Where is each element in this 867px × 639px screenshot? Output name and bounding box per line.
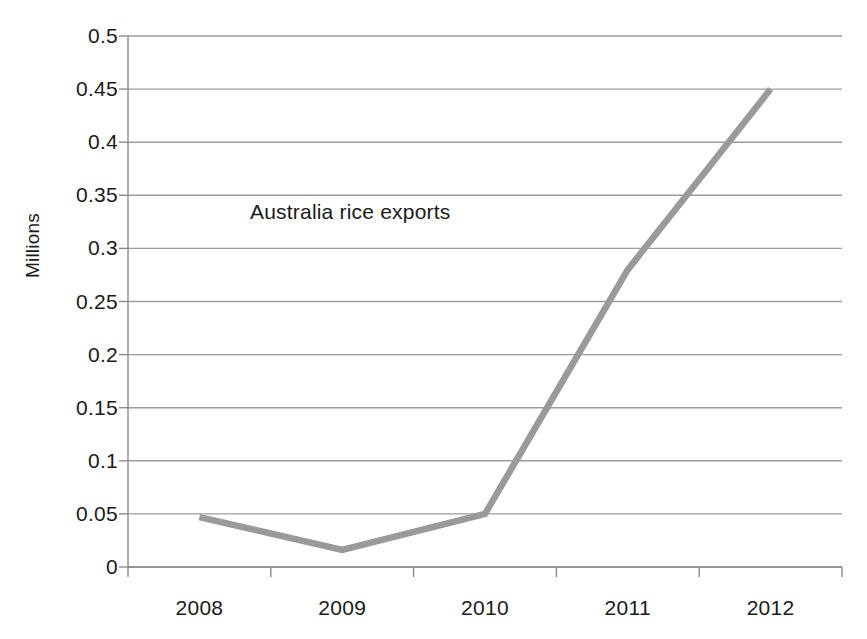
series-annotation-label: Australia rice exports bbox=[250, 200, 450, 224]
series-line bbox=[199, 89, 770, 550]
data-series-line bbox=[199, 89, 770, 550]
x-axis-ticks bbox=[128, 567, 842, 577]
x-axis-tick-label: 2011 bbox=[548, 596, 708, 620]
y-axis-ticks bbox=[119, 36, 128, 567]
plot-area bbox=[0, 0, 867, 639]
x-axis-tick-label: 2008 bbox=[119, 596, 279, 620]
x-axis-tick-labels: 20082009201020112012 bbox=[0, 596, 867, 626]
line-chart: Millions 00.050.10.150.20.250.30.350.40.… bbox=[0, 0, 867, 639]
x-axis-tick-label: 2009 bbox=[262, 596, 422, 620]
x-axis-tick-label: 2010 bbox=[405, 596, 565, 620]
horizontal-gridlines bbox=[128, 36, 842, 567]
x-axis-tick-label: 2012 bbox=[691, 596, 851, 620]
